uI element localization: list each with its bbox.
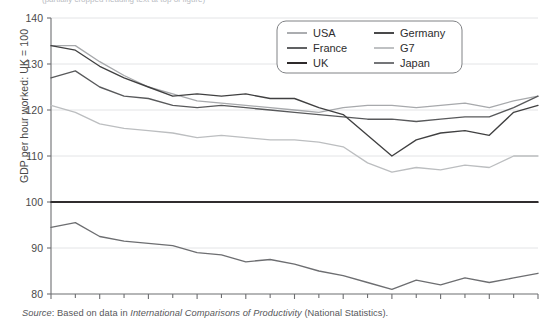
figure-chart-gdp-per-hour-worked: (partially cropped heading text at top o…: [0, 0, 553, 328]
line-chart-svg: 8090100110120130140199019921994199619982…: [0, 0, 553, 300]
source-work-title: International Comparisons of Productivit…: [130, 308, 302, 318]
series-line-japan: [51, 223, 538, 290]
legend-label-japan: Japan: [400, 57, 430, 69]
y-tick-label-120: 120: [25, 104, 43, 116]
y-tick-label-130: 130: [25, 58, 43, 70]
y-tick-label-90: 90: [31, 242, 43, 254]
legend-label-g7: G7: [400, 42, 415, 54]
y-tick-label-110: 110: [26, 150, 43, 162]
plot-area: GDP per hour worked: UK = 100 8090100110…: [0, 0, 553, 300]
legend-label-germany: Germany: [400, 27, 446, 39]
legend-label-uk: UK: [313, 57, 329, 69]
source-suffix: (National Statistics).: [302, 308, 388, 318]
series-line-g7: [51, 105, 538, 172]
source-label: Source: [22, 308, 52, 318]
legend-label-france: France: [313, 42, 347, 54]
y-tick-label-100: 100: [25, 196, 43, 208]
y-tick-label-140: 140: [25, 12, 43, 24]
source-separator: : Based on data in: [52, 308, 130, 318]
source-caption: Source: Based on data in International C…: [22, 308, 388, 318]
legend-label-usa: USA: [313, 27, 336, 39]
y-tick-label-80: 80: [31, 288, 43, 300]
